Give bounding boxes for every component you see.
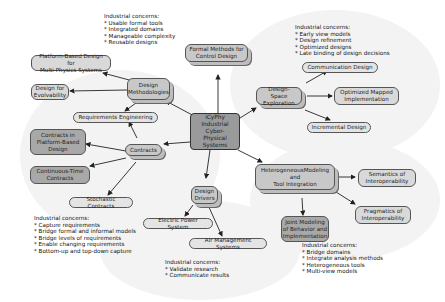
concerns-heterogeneous: Industrial concerns: * Bridge domains * … — [302, 242, 383, 275]
leaf-semantics-interoperability[interactable]: Semantics of Interoperability — [358, 169, 416, 187]
leaf-electric-power[interactable]: Electric Power System — [143, 218, 213, 229]
leaf-communication-design[interactable]: Communication Design — [302, 62, 378, 73]
leaf-design-evolvability[interactable]: Design for Evolvability — [31, 84, 69, 100]
concerns-drivers: Industrial concerns: * Validate research… — [165, 259, 229, 279]
leaf-air-management[interactable]: Air Management Systems — [189, 238, 267, 249]
concerns-methodologies: Industrial concerns: * Usable formal too… — [104, 13, 175, 46]
leaf-stochastic-contracts[interactable]: Stochastic Contracts — [69, 197, 133, 208]
hub-design-space-exploration[interactable]: Design-Space Exploration — [256, 87, 302, 105]
leaf-optimized-mapped[interactable]: Optimized Mapped Implementation — [334, 87, 399, 105]
leaf-continuous-time[interactable]: Continuous-Time Contracts — [30, 166, 90, 184]
leaf-incremental-design[interactable]: Incremental Design — [307, 122, 371, 133]
hub-heterogeneous-modeling[interactable]: HeterogeneousModeling and Tool Integrati… — [255, 164, 335, 190]
hub-formal-methods[interactable]: Formal Methods for Control Design — [185, 44, 248, 62]
leaf-requirements-engineering[interactable]: Requirements Engineering — [73, 112, 158, 123]
concerns-contracts: Industrial concerns: * Capture requireme… — [34, 215, 136, 255]
leaf-pragmatics-interoperability[interactable]: Pragmatics of Interoperability — [355, 206, 411, 224]
concerns-design-space: Industrial concerns: * Early view models… — [295, 24, 390, 57]
center-node-icyphy[interactable]: iCyPhy Industrial Cyber-Physical Systems — [190, 113, 240, 150]
leaf-contracts-platform[interactable]: Contracts in Platform-Based Design — [30, 129, 86, 155]
hub-design-methodologies[interactable]: Design Methodologies — [127, 78, 170, 100]
leaf-joint-modeling[interactable]: Joint Modeling of Behavior and Implement… — [281, 216, 329, 242]
hub-contracts[interactable]: Contracts — [125, 144, 162, 156]
hub-design-drivers[interactable]: Design Drivers — [191, 186, 218, 204]
leaf-platform-multiphysics[interactable]: Platform-Based Design for Multi-Physics … — [31, 55, 111, 71]
